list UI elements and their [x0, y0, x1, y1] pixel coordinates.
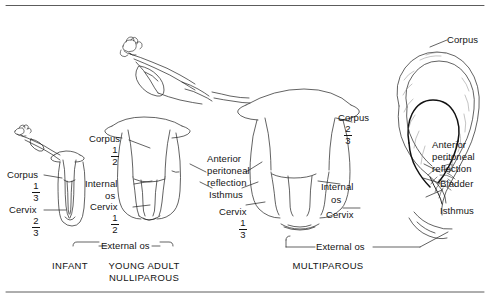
fraction-young-adult-cervix: 1 2	[111, 213, 119, 235]
fraction-numerator: 1	[111, 145, 119, 155]
label-middle-reflection: reflection	[207, 178, 247, 189]
fraction-denominator: 2	[111, 157, 119, 167]
fraction-numerator: 2	[32, 216, 40, 226]
fraction-numerator: 1	[111, 213, 119, 223]
label-sagittal-reflection: reflection	[432, 164, 472, 175]
caption-infant: INFANT	[37, 260, 103, 272]
label-young-adult-cervix: Cervix	[90, 202, 118, 213]
fraction-middle-cervix: 1 3	[239, 218, 247, 240]
label-sagittal-corpus: Corpus	[447, 35, 478, 46]
caption-multiparous: MULTIPAROUS	[273, 260, 383, 272]
label-multiparous-external-os: External os	[316, 242, 365, 253]
fraction-denominator: 3	[32, 193, 40, 203]
label-young-adult-internal: Internal	[85, 179, 118, 190]
label-young-adult-external-os: External os	[101, 241, 150, 252]
fraction-young-adult-corpus: 1 2	[111, 145, 119, 167]
label-middle-isthmus: Isthmus	[209, 190, 243, 201]
caption-young-adult-nulliparous: YOUNG ADULT NULLIPAROUS	[98, 260, 190, 284]
fraction-denominator: 3	[32, 228, 40, 238]
fraction-infant-corpus: 1 3	[32, 181, 40, 203]
label-young-adult-corpus: Corpus	[89, 134, 120, 145]
label-multiparous-internal: Internal	[321, 182, 354, 193]
fraction-numerator: 2	[344, 124, 352, 134]
young-adult-specimen	[105, 37, 212, 220]
label-middle-peritoneal: peritoneal	[207, 166, 250, 177]
label-multiparous-internal-os: os	[331, 195, 341, 206]
label-sagittal-isthmus: Isthmus	[440, 206, 474, 217]
fraction-numerator: 1	[32, 181, 40, 191]
label-multiparous-cervix: Cervix	[326, 210, 354, 221]
label-young-adult-internal-os: os	[105, 191, 115, 202]
label-sagittal-anterior: Anterior	[432, 140, 466, 151]
fraction-multiparous-corpus: 2 3	[344, 124, 352, 146]
label-middle-cervix: Cervix	[219, 207, 247, 218]
fraction-infant-cervix: 2 3	[32, 216, 40, 238]
fraction-denominator: 3	[344, 136, 352, 146]
label-multiparous-corpus: Corpus	[338, 113, 369, 124]
anatomy-figure: Corpus 1 3 Cervix 2 3 INFANT Corpus 1 2 …	[0, 0, 490, 305]
fraction-numerator: 1	[239, 218, 247, 228]
label-middle-anterior: Anterior	[207, 154, 241, 165]
fraction-denominator: 2	[111, 225, 119, 235]
label-infant-corpus: Corpus	[7, 170, 38, 181]
label-infant-cervix: Cervix	[9, 205, 37, 216]
label-sagittal-bladder: Bladder	[440, 179, 473, 190]
label-sagittal-peritoneal: peritoneal	[432, 152, 475, 163]
fraction-denominator: 3	[239, 230, 247, 240]
